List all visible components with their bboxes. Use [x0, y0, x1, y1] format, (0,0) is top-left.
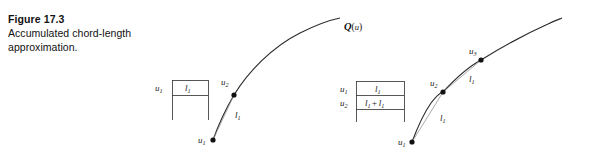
left-table: u1 l1	[155, 80, 208, 120]
left-curve	[213, 18, 340, 140]
right-point-u1	[409, 139, 414, 144]
right-table-row-0-key: u1	[340, 84, 348, 95]
right-point-u3	[478, 57, 483, 62]
left-table-row-0-value: l1	[185, 83, 191, 94]
right-label-u1: u1	[398, 137, 406, 148]
left-diagram: u1 l1 u1 u2 l1	[155, 18, 340, 146]
right-chord-u1-u2	[412, 92, 443, 142]
left-point-u2	[231, 92, 236, 97]
left-table-row-0-key: u1	[155, 83, 163, 94]
curve-label-q-of-u: Q(u)	[344, 21, 362, 33]
right-table-row-1-value: l1+l1	[365, 98, 384, 109]
right-chord-label-l2: l1	[469, 74, 475, 85]
right-diagram: u1 l1 u2 l1+l1	[340, 18, 562, 148]
right-table-row-1-key: u2	[340, 98, 348, 109]
left-chord-u1-u2	[213, 95, 234, 140]
figure-container: Figure 17.3 Accumulated chord-length app…	[0, 0, 591, 164]
left-point-u1	[210, 137, 215, 142]
figure-artwork: u1 l1 u1 u2 l1	[0, 0, 591, 164]
left-label-u2: u2	[221, 77, 229, 88]
right-point-u2	[440, 89, 445, 94]
right-table-row-0-value: l1	[375, 84, 381, 95]
right-chord-label-l1: l1	[440, 113, 446, 124]
right-label-u3: u3	[469, 46, 477, 57]
right-table: u1 l1 u2 l1+l1	[340, 81, 404, 122]
left-chord-label-l1: l1	[235, 110, 241, 121]
right-label-u2: u2	[430, 78, 438, 89]
right-curve	[412, 18, 562, 142]
left-label-u1: u1	[198, 135, 206, 146]
right-chord-u2-u3	[443, 60, 481, 92]
